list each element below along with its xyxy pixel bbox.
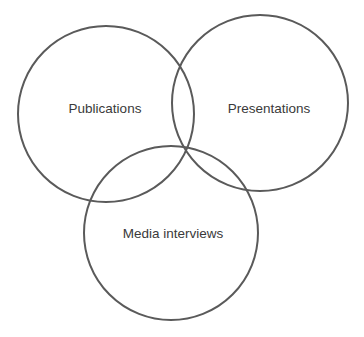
publications-label: Publications xyxy=(69,101,142,116)
venn-diagram: Publications Presentations Media intervi… xyxy=(0,0,364,337)
presentations-label: Presentations xyxy=(228,101,311,116)
media-interviews-label: Media interviews xyxy=(123,226,224,241)
